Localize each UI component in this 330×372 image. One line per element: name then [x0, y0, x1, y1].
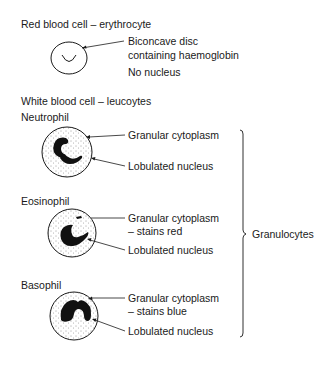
- erythrocyte-icon: [51, 42, 87, 74]
- neutrophil-nucleus-label: Lobulated nucleus: [128, 160, 213, 172]
- leucocytes-heading: White blood cell – leucoytes: [21, 95, 151, 107]
- eosinophil-cytoplasm-label: Granular cytoplasm: [128, 212, 219, 224]
- erythrocyte-label-haemoglobin: containing haemoglobin: [128, 49, 239, 61]
- basophil-nucleus-label: Lobulated nucleus: [128, 325, 213, 337]
- neutrophil-cytoplasm-label: Granular cytoplasm: [128, 129, 219, 141]
- erythrocyte-label-nucleus: No nucleus: [128, 66, 181, 78]
- granulocytes-brace: [240, 130, 246, 337]
- erythrocyte-label-biconcave: Biconcave disc: [128, 35, 198, 47]
- eosinophil-nucleus-label: Lobulated nucleus: [128, 244, 213, 256]
- basophil-title: Basophil: [21, 279, 61, 291]
- granulocytes-label: Granulocytes: [252, 228, 314, 240]
- erythrocyte-pointer: [82, 41, 124, 49]
- eosinophil-stain-label: – stains red: [128, 225, 182, 237]
- basophil-cytoplasm-label: Granular cytoplasm: [128, 292, 219, 304]
- basophil-stain-label: – stains blue: [128, 305, 187, 317]
- neutrophil-title: Neutrophil: [21, 111, 69, 123]
- erythrocyte-heading: Red blood cell – erythrocyte: [21, 18, 151, 30]
- eosinophil-icon: [48, 209, 96, 257]
- neutrophil-icon: [42, 127, 92, 177]
- eosinophil-title: Eosinophil: [21, 195, 69, 207]
